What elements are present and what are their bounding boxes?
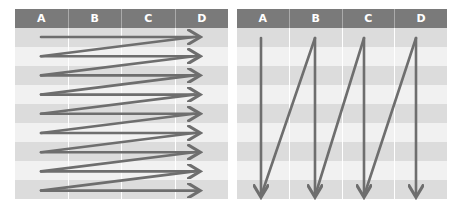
connector-line (41, 95, 194, 114)
column-zigzag-arrows (261, 38, 416, 196)
connector-line (364, 38, 416, 196)
connector-line (41, 114, 194, 133)
connector-line (41, 152, 194, 171)
connector-line (41, 56, 194, 75)
row-zigzag-arrows (41, 37, 199, 191)
connector-line (315, 38, 364, 196)
connector-line (41, 37, 194, 56)
connector-line (41, 133, 194, 152)
connector-line (41, 75, 194, 94)
connector-line (261, 38, 315, 196)
arrow-overlay (0, 0, 460, 218)
connector-line (41, 171, 194, 190)
